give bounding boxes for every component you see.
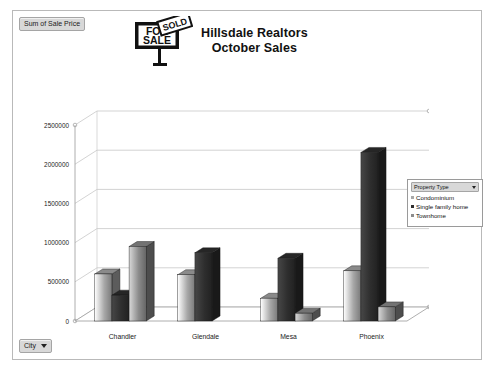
bar-chart-3d: 05000001000000150000020000002500000Chand… (29, 63, 429, 348)
bar-glendale-single-family-home[interactable] (195, 248, 220, 321)
y-axis-tick-label: 1000000 (44, 239, 69, 246)
value-field-button[interactable]: Sum of Sale Price (19, 17, 85, 31)
bar-phoenix-single-family-home[interactable] (361, 147, 386, 321)
legend-item: Condominium (411, 193, 479, 202)
svg-text:SALE: SALE (143, 34, 171, 46)
pivotchart-frame: Sum of Sale Price FOR SALE SOLD Hillsdal… (12, 10, 482, 360)
x-axis-category-label: Mesa (280, 333, 297, 340)
plot-area: 05000001000000150000020000002500000Chand… (29, 63, 429, 348)
legend-item-label: Condominium (416, 193, 454, 202)
chevron-down-icon[interactable] (41, 344, 47, 348)
legend-item-label: Single family home (416, 202, 468, 211)
legend-swatch-icon (411, 214, 414, 217)
y-axis-tick-label: 1500000 (44, 200, 69, 207)
legend-items: CondominiumSingle family homeTownhome (411, 193, 479, 220)
title-line-2: October Sales (201, 41, 308, 56)
city-field-button[interactable]: City (19, 339, 52, 353)
value-field-label: Sum of Sale Price (24, 19, 80, 29)
for-sale-sold-sign-icon: FOR SALE SOLD (131, 16, 193, 66)
legend-swatch-icon (411, 205, 414, 208)
x-axis-category-label: Glendale (192, 333, 219, 340)
legend-header-label: Property Type (414, 183, 449, 191)
bar-chandler-townhome[interactable] (129, 242, 154, 321)
x-axis-category-label: Chandler (109, 333, 137, 340)
y-axis-tick-label: 500000 (48, 278, 70, 285)
legend-filter-button[interactable]: Property Type (411, 182, 479, 192)
city-field-label: City (24, 341, 36, 351)
bar-phoenix-townhome[interactable] (378, 302, 403, 321)
page-title: Hillsdale Realtors October Sales (199, 26, 308, 56)
y-axis-tick-label: 2000000 (44, 161, 69, 168)
x-axis-category-label: Phoenix (359, 333, 384, 340)
chart-title-block: FOR SALE SOLD Hillsdale Realtors October… (131, 15, 361, 67)
title-line-1: Hillsdale Realtors (201, 26, 308, 40)
legend-swatch-icon (411, 196, 414, 199)
legend-item: Townhome (411, 211, 479, 220)
chevron-down-icon[interactable] (472, 186, 476, 189)
legend-item: Single family home (411, 202, 479, 211)
y-axis-tick-label: 0 (65, 318, 69, 325)
legend-item-label: Townhome (416, 211, 446, 220)
legend[interactable]: Property Type CondominiumSingle family h… (407, 179, 483, 227)
y-axis-tick-label: 2500000 (44, 122, 69, 129)
